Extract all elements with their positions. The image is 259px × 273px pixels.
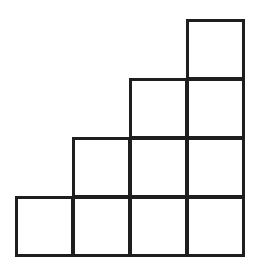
grid-square [186,196,245,257]
grid-square [129,137,188,198]
grid-square [72,137,131,198]
grid-square [129,78,188,139]
staircase-diagram [0,0,259,273]
grid-square [15,196,74,257]
grid-square [186,137,245,198]
grid-square [72,196,131,257]
grid-square [186,78,245,139]
grid-square [129,196,188,257]
grid-square [186,19,245,80]
